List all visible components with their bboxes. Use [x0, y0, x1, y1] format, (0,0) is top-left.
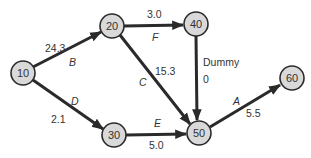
duration-label-C: 15.3	[155, 65, 176, 77]
edge-B-10-20	[33, 32, 101, 67]
node-20: 20	[100, 14, 124, 38]
edge-F-20-40	[124, 25, 183, 26]
node-60: 60	[280, 66, 304, 90]
node-10: 10	[11, 61, 35, 85]
node-label-10: 10	[17, 67, 29, 79]
activity-label-A: A	[232, 95, 240, 107]
duration-label-D: 2.1	[51, 113, 66, 125]
duration-label-F: 3.0	[147, 8, 162, 20]
edge-D-10-30	[33, 80, 103, 129]
node-40: 40	[184, 12, 208, 36]
node-50: 50	[187, 121, 211, 145]
node-30: 30	[102, 123, 126, 147]
duration-label-E: 5.0	[149, 139, 164, 151]
node-label-30: 30	[108, 129, 120, 141]
duration-label-B: 24.3	[45, 42, 66, 54]
activity-label-dummy: Dummy	[203, 56, 240, 68]
network-diagram: 24.3 B D 2.1 3.0 F 15.3 C Dummy 0 E 5.0 …	[0, 0, 311, 158]
edge-A-50-60	[210, 85, 280, 127]
edge-E-30-50	[126, 134, 186, 135]
edge-C-20-50	[120, 35, 190, 124]
duration-label-dummy: 0	[203, 73, 209, 85]
activity-label-F: F	[152, 31, 159, 43]
node-label-40: 40	[190, 18, 202, 30]
node-label-50: 50	[193, 127, 205, 139]
activity-label-E: E	[154, 117, 162, 129]
edge-dummy-40-50	[196, 36, 197, 120]
node-label-60: 60	[286, 72, 298, 84]
node-label-20: 20	[106, 20, 118, 32]
activity-label-C: C	[139, 76, 147, 88]
duration-label-A: 5.5	[246, 107, 261, 119]
activity-label-D: D	[71, 95, 79, 107]
activity-label-B: B	[69, 56, 76, 68]
